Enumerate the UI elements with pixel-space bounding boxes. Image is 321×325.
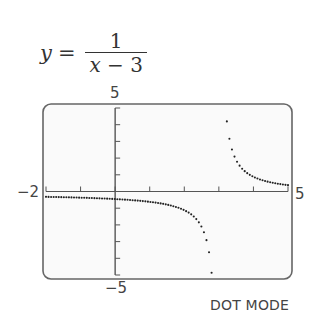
data-dot: [269, 181, 271, 183]
data-dot: [264, 180, 266, 182]
data-dot: [185, 210, 187, 212]
data-dot: [244, 170, 246, 172]
data-dot: [88, 197, 90, 199]
data-dot: [78, 197, 80, 199]
data-dot: [261, 179, 263, 181]
data-dot: [160, 202, 162, 204]
data-dot: [188, 212, 190, 214]
data-dot: [126, 199, 128, 201]
data-dot: [190, 213, 192, 215]
data-dot: [177, 207, 179, 209]
data-dot: [267, 181, 269, 183]
data-dot: [116, 198, 118, 200]
data-dot: [81, 197, 83, 199]
data-dot: [287, 184, 289, 186]
data-dot: [104, 198, 106, 200]
data-dot: [165, 203, 167, 205]
data-dot: [180, 208, 182, 210]
data-dot: [91, 197, 93, 199]
data-dot: [119, 198, 121, 200]
data-dot: [233, 156, 235, 158]
data-dot: [211, 272, 213, 274]
data-dot: [50, 196, 52, 198]
data-dot: [101, 197, 103, 199]
data-dot: [239, 165, 241, 167]
data-dot: [228, 138, 230, 140]
data-dot: [147, 201, 149, 203]
data-dot: [83, 197, 85, 199]
data-dot: [124, 199, 126, 201]
data-dot: [274, 182, 276, 184]
data-dot: [279, 183, 281, 185]
data-dot: [144, 200, 146, 202]
data-dot: [98, 197, 100, 199]
data-dot: [195, 218, 197, 220]
data-dot: [93, 197, 95, 199]
data-dot: [137, 200, 139, 202]
data-dot: [205, 239, 207, 241]
mode-label: DOT MODE: [210, 297, 289, 313]
data-dot: [132, 199, 134, 201]
data-dot: [70, 196, 72, 198]
data-dot: [149, 201, 151, 203]
data-dot: [129, 199, 131, 201]
data-dot: [175, 206, 177, 208]
data-dot: [236, 161, 238, 163]
data-dot: [259, 178, 261, 180]
data-dot: [134, 199, 136, 201]
data-dot: [284, 184, 286, 186]
data-dot: [198, 221, 200, 223]
data-dot: [76, 197, 78, 199]
data-dot: [277, 183, 279, 185]
data-dot: [48, 196, 50, 198]
data-dot: [58, 196, 60, 198]
data-dot: [68, 196, 70, 198]
data-dot: [60, 196, 62, 198]
graph-screen: [0, 0, 321, 325]
data-dot: [109, 198, 111, 200]
data-dot: [106, 198, 108, 200]
data-dot: [63, 196, 65, 198]
data-dot: [53, 196, 55, 198]
data-dot: [45, 196, 47, 198]
data-dot: [183, 209, 185, 211]
data-dot: [193, 215, 195, 217]
data-dot: [200, 226, 202, 228]
data-dot: [121, 198, 123, 200]
data-dot: [73, 196, 75, 198]
data-dot: [256, 177, 258, 179]
data-dot: [154, 202, 156, 204]
data-dot: [272, 182, 274, 184]
data-dot: [208, 251, 210, 253]
data-dot: [142, 200, 144, 202]
data-dot: [86, 197, 88, 199]
data-dot: [254, 176, 256, 178]
data-dot: [162, 203, 164, 205]
data-dot: [231, 148, 233, 150]
data-dot: [249, 174, 251, 176]
data-dot: [167, 204, 169, 206]
data-dot: [55, 196, 57, 198]
data-dot: [96, 197, 98, 199]
data-dot: [203, 231, 205, 233]
data-dot: [246, 172, 248, 174]
data-dot: [111, 198, 113, 200]
data-dot: [152, 201, 154, 203]
data-dot: [114, 198, 116, 200]
data-dot: [251, 175, 253, 177]
data-dot: [241, 168, 243, 170]
data-dot: [226, 120, 228, 122]
data-dot: [170, 204, 172, 206]
data-dot: [157, 202, 159, 204]
data-dot: [139, 200, 141, 202]
data-dot: [65, 196, 67, 198]
data-dot: [282, 183, 284, 185]
data-dot: [172, 205, 174, 207]
